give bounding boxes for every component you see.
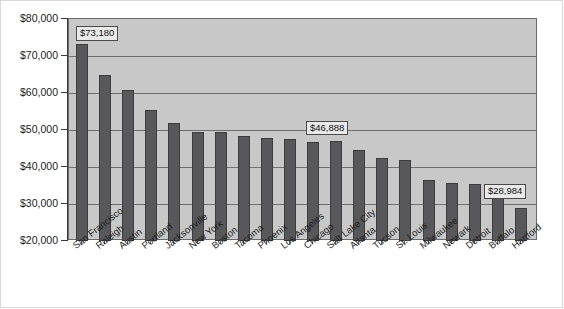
y-axis-tick-label: $60,000 [0, 87, 58, 98]
bar-chart: $80,000$70,000$60,000$50,000$40,000$30,0… [0, 0, 564, 309]
data-label-callout: $73,180 [76, 26, 118, 41]
gridline [69, 130, 536, 131]
gridline [69, 167, 536, 168]
y-axis-tick [61, 92, 68, 93]
x-axis-labels: San FranciscoRaleighAustinPortlandJackso… [0, 243, 564, 309]
y-axis-tick-label: $70,000 [0, 50, 58, 61]
bar [261, 138, 273, 241]
bar [145, 110, 157, 241]
plot-area [68, 18, 537, 240]
bar [76, 44, 88, 241]
y-axis-tick [61, 203, 68, 204]
y-axis-tick-label: $40,000 [0, 161, 58, 172]
y-axis-tick [61, 166, 68, 167]
gridline [69, 56, 536, 57]
y-axis-tick [61, 55, 68, 56]
data-label-callout: $28,984 [484, 184, 526, 199]
y-axis-tick-label: $80,000 [0, 13, 58, 24]
y-axis-tick [61, 18, 68, 19]
gridline [69, 204, 536, 205]
y-axis-tick-label: $50,000 [0, 124, 58, 135]
y-axis-tick-label: $30,000 [0, 198, 58, 209]
y-axis-tick [61, 129, 68, 130]
data-label-callout: $46,888 [306, 121, 348, 136]
bar [122, 90, 134, 241]
gridline [69, 93, 536, 94]
y-axis-tick [61, 240, 68, 241]
bar [238, 136, 250, 241]
